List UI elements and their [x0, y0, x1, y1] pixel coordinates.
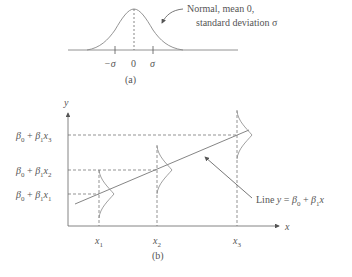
- label-neg-sigma: −σ: [104, 58, 117, 69]
- label-zero: 0: [131, 58, 136, 69]
- caption-a: (a): [125, 74, 136, 86]
- level-label-2: β0 + β1x2: [15, 165, 52, 179]
- caption-b: (b): [152, 250, 164, 262]
- guides: [68, 110, 237, 226]
- label-sigma: σ: [150, 58, 156, 69]
- level-label-1: β0 + β1x1: [15, 189, 52, 203]
- panel-b: y x β0 + β1x3 β0 + β1x2 β0 + β1x1 x1 x: [15, 97, 325, 262]
- annotation-arrow: [162, 9, 183, 23]
- y-axis-label: y: [63, 97, 69, 108]
- panel-a: −σ 0 σ (a) Normal, mean 0, standard devi…: [68, 3, 278, 86]
- regression-diagram: −σ 0 σ (a) Normal, mean 0, standard devi…: [0, 0, 352, 277]
- x3-label: x3: [232, 235, 241, 249]
- normal-curve: [87, 9, 183, 50]
- x-axis-label: x: [284, 221, 290, 232]
- dist-x1: [99, 170, 114, 218]
- dist-x2: [157, 146, 172, 194]
- x1-label: x1: [94, 235, 103, 249]
- annotation-line2: standard deviation σ: [196, 17, 278, 28]
- line-annotation: Line y = β0 + β1x: [256, 194, 325, 208]
- annotation-line1: Normal, mean 0,: [187, 3, 254, 14]
- level-label-3: β0 + β1x3: [15, 130, 52, 144]
- regression-line: [75, 130, 249, 204]
- line-annotation-arrow: [205, 157, 252, 198]
- dist-x3: [237, 111, 252, 159]
- x2-label: x2: [152, 235, 161, 249]
